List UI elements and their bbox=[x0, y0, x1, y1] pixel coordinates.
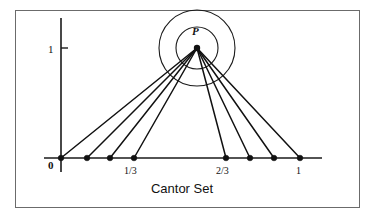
cantor-dot-1-3 bbox=[131, 155, 137, 161]
x-axis-tick-label-1: 1 bbox=[296, 166, 301, 176]
cantor-dot-7-9 bbox=[247, 155, 253, 161]
ray-to-2-9 bbox=[110, 48, 197, 158]
ray-to-1 bbox=[197, 48, 300, 158]
ray-to-1-3 bbox=[134, 48, 197, 158]
axis-caption-text: Cantor Set bbox=[151, 182, 213, 195]
cantor-dot-2-3 bbox=[223, 155, 229, 161]
x-axis-tick-label-0: 0 bbox=[48, 160, 54, 171]
axis-caption: Cantor Set bbox=[0, 182, 376, 195]
apex-point-p bbox=[194, 45, 200, 51]
cantor-dot-2-9 bbox=[107, 155, 113, 161]
cantor-dot-1-9 bbox=[84, 155, 90, 161]
y-axis-tick-label-1: 1 bbox=[48, 44, 54, 55]
projection-rays bbox=[61, 48, 300, 158]
ray-to-7-9 bbox=[197, 48, 250, 158]
cantor-dot-1 bbox=[297, 155, 303, 161]
ray-to-0 bbox=[61, 48, 197, 158]
point-p-label: P bbox=[192, 26, 199, 37]
x-axis-tick-label-two-thirds: 2/3 bbox=[216, 166, 229, 176]
x-axis-tick-label-one-third: 1/3 bbox=[124, 166, 137, 176]
cantor-dot-0 bbox=[58, 155, 64, 161]
ray-to-8-9 bbox=[197, 48, 274, 158]
cantor-set-figure: P 1 0 1/3 2/3 1 Cantor Set bbox=[0, 0, 376, 220]
cantor-dot-8-9 bbox=[271, 155, 277, 161]
ray-to-1-9 bbox=[87, 48, 197, 158]
